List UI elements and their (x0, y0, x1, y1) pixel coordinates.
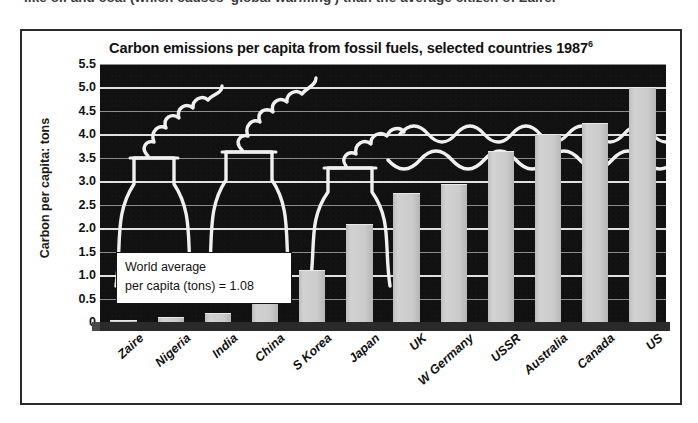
bar-canada[interactable] (582, 123, 608, 322)
x-axis-label-nigeria: Nigeria (152, 331, 193, 370)
figure-frame: Carbon emissions per capita from fossil … (20, 29, 682, 405)
world-average-annotation: World average per capita (tons) = 1.08 (116, 252, 292, 304)
bar-uk[interactable] (393, 193, 419, 322)
y-axis-tick-2-5: 2.5 (56, 198, 96, 211)
x-axis-category-labels: ZaireNigeriaIndiaChinaS KoreaJapanUKW Ge… (100, 331, 666, 405)
bar-australia[interactable] (535, 134, 561, 322)
bar-ussr[interactable] (488, 151, 514, 322)
y-axis-tick-4-5: 4.5 (56, 105, 96, 118)
bar-india[interactable] (205, 313, 231, 322)
bar-w-germany[interactable] (441, 184, 467, 322)
x-axis-label-s-korea: S Korea (290, 331, 334, 373)
x-axis-label-ussr: USSR (488, 331, 523, 365)
axis-baseline (100, 322, 670, 331)
annotation-line-2: per capita (tons) = 1.08 (125, 277, 283, 296)
footnote-marker: 6 (588, 39, 593, 49)
y-axis-tick-0-5: 0.5 (56, 292, 96, 305)
y-axis-tick-0: 0 (56, 316, 96, 329)
x-axis-label-china: China (252, 331, 287, 365)
bar-s-korea[interactable] (299, 270, 325, 322)
y-axis-tick-1-0: 1.0 (56, 269, 96, 282)
y-axis-title: Carbon per capita: tons (38, 103, 52, 273)
chart-title: Carbon emissions per capita from fossil … (22, 39, 680, 56)
annotation-line-1: World average (125, 258, 283, 277)
x-axis-label-australia: Australia (522, 331, 571, 377)
x-axis-label-zaire: Zaire (115, 331, 147, 361)
bar-us[interactable] (629, 87, 655, 322)
x-axis-label-india: India (209, 331, 240, 361)
x-axis-label-canada: Canada (575, 331, 618, 372)
y-axis-tick-5-5: 5.5 (56, 58, 96, 71)
y-axis-tick-4-0: 4.0 (56, 128, 96, 141)
x-axis-label-us: US (643, 331, 665, 353)
axis-floor-shadow (92, 322, 100, 331)
y-axis-tick-1-5: 1.5 (56, 245, 96, 258)
bar-japan[interactable] (346, 224, 372, 323)
y-axis-tick-3-0: 3.0 (56, 175, 96, 188)
x-axis-label-uk: UK (406, 331, 429, 353)
x-axis-label-japan: Japan (346, 331, 382, 366)
y-axis-tick-5-0: 5.0 (56, 81, 96, 94)
page-body-text-clipped: like oil and coal (which causes 'global … (0, 0, 698, 14)
y-axis-tick-labels: 00.51.01.52.02.53.03.54.04.55.05.5 (56, 64, 96, 322)
body-text-line: like oil and coal (which causes 'global … (24, 0, 684, 5)
y-axis-tick-2-0: 2.0 (56, 222, 96, 235)
chart-title-text: Carbon emissions per capita from fossil … (109, 40, 588, 56)
screenshot-page: like oil and coal (which causes 'global … (0, 0, 698, 423)
y-axis-tick-3-5: 3.5 (56, 152, 96, 165)
